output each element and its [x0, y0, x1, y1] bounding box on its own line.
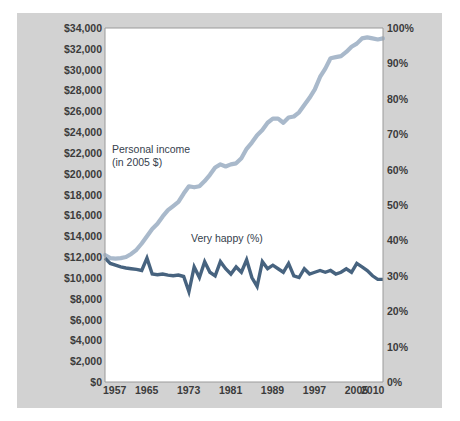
y-left-tick: $8,000 [40, 294, 102, 304]
y-left-tick: $20,000 [40, 169, 102, 179]
y-left-tick: $34,000 [40, 23, 102, 33]
y-left-tick: $0 [40, 377, 102, 387]
y-axis-right: 100%90%80%70%60%50%40%30%20%10%0% [387, 28, 437, 382]
y-left-tick: $10,000 [40, 273, 102, 283]
y-left-tick: $4,000 [40, 335, 102, 345]
y-right-tick: 100% [387, 23, 414, 33]
y-right-tick: 0% [387, 377, 402, 387]
y-left-tick: $32,000 [40, 44, 102, 54]
y-right-tick: 70% [387, 129, 408, 139]
chart-plot [105, 28, 383, 382]
y-right-tick: 40% [387, 235, 408, 245]
y-right-tick: 10% [387, 342, 408, 352]
y-right-tick: 30% [387, 271, 408, 281]
income-series-label: Personal income (in 2005 $) [112, 143, 190, 169]
x-axis: 19571965197319811989199720052010 [105, 384, 383, 404]
figure-container: $34,000$32,000$30,000$28,000$26,000$24,0… [0, 0, 460, 421]
plot-rect [105, 28, 383, 382]
y-right-tick: 80% [387, 94, 408, 104]
y-axis-left: $34,000$32,000$30,000$28,000$26,000$24,0… [36, 28, 102, 382]
x-tick: 1965 [135, 384, 158, 396]
y-left-tick: $26,000 [40, 106, 102, 116]
y-left-tick: $22,000 [40, 148, 102, 158]
y-left-tick: $18,000 [40, 190, 102, 200]
y-left-tick: $14,000 [40, 231, 102, 241]
y-left-tick: $28,000 [40, 85, 102, 95]
y-left-tick: $12,000 [40, 252, 102, 262]
y-right-tick: 60% [387, 165, 408, 175]
y-left-tick: $6,000 [40, 315, 102, 325]
y-right-tick: 90% [387, 58, 408, 68]
y-left-tick: $2,000 [40, 356, 102, 366]
x-tick: 1989 [261, 384, 284, 396]
x-tick: 1997 [303, 384, 326, 396]
x-tick: 2010 [361, 384, 384, 396]
x-tick: 1957 [103, 384, 126, 396]
happy-series-label: Very happy (%) [191, 232, 263, 245]
x-tick: 1973 [177, 384, 200, 396]
y-right-tick: 20% [387, 306, 408, 316]
x-tick: 1981 [219, 384, 242, 396]
y-right-tick: 50% [387, 200, 408, 210]
y-left-tick: $30,000 [40, 65, 102, 75]
y-left-tick: $24,000 [40, 127, 102, 137]
y-left-tick: $16,000 [40, 210, 102, 220]
figure-title [0, 0, 460, 12]
